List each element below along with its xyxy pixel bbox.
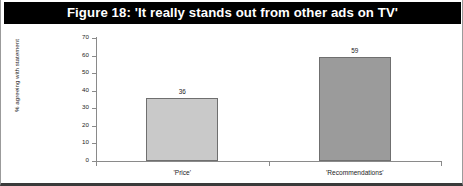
x-tick-mark	[269, 161, 270, 166]
bar-value-label: 59	[335, 48, 375, 54]
y-tick-mark	[92, 91, 97, 92]
y-axis-title: % agreeing with statement	[13, 28, 20, 124]
y-tick-mark	[92, 108, 97, 109]
y-tick-mark	[92, 143, 97, 144]
figure-container: Figure 18: 'It really stands out from ot…	[0, 0, 463, 186]
bar	[319, 57, 391, 161]
y-tick-mark	[92, 56, 97, 57]
x-category-label: 'Price'	[102, 170, 262, 177]
y-tick-row: 10	[1, 139, 89, 147]
y-tick-label: 0	[1, 157, 89, 163]
chart-plot-area: 010203040506070 % agreeing with statemen…	[1, 0, 463, 186]
x-category-label: 'Recommendations'	[275, 170, 435, 177]
y-tick-label: 10	[1, 139, 89, 145]
y-tick-mark	[92, 73, 97, 74]
y-tick-mark	[92, 38, 97, 39]
x-tick-mark	[96, 161, 97, 166]
x-tick-mark	[441, 161, 442, 166]
bar-value-label: 36	[162, 89, 202, 95]
y-tick-row: 0	[1, 157, 89, 165]
y-tick-mark	[92, 126, 97, 127]
bar	[146, 98, 218, 161]
